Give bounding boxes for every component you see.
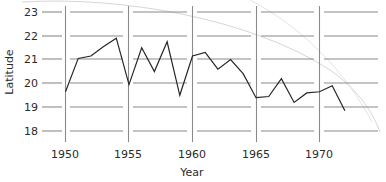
chart-svg: 23 22 21 20 19 18 1950 1955 1960 1965 19… [0, 0, 386, 182]
y-tick-label: 23 [24, 6, 38, 19]
y-tick-label: 20 [24, 77, 38, 90]
x-tick-label: 1955 [114, 148, 142, 161]
y-tick-label: 21 [24, 53, 38, 66]
chart-figure: 23 22 21 20 19 18 1950 1955 1960 1965 19… [0, 0, 386, 182]
y-axis-title: Latitude [3, 49, 16, 95]
x-tick-label: 1960 [178, 148, 206, 161]
x-axis-title: Year [179, 166, 204, 179]
y-tick-label: 18 [24, 125, 38, 138]
x-tick-label: 1965 [242, 148, 270, 161]
y-tick-label: 19 [24, 101, 38, 114]
y-tick-label: 22 [24, 30, 38, 43]
x-tick-label: 1950 [51, 148, 79, 161]
x-tick-label: 1970 [305, 148, 333, 161]
